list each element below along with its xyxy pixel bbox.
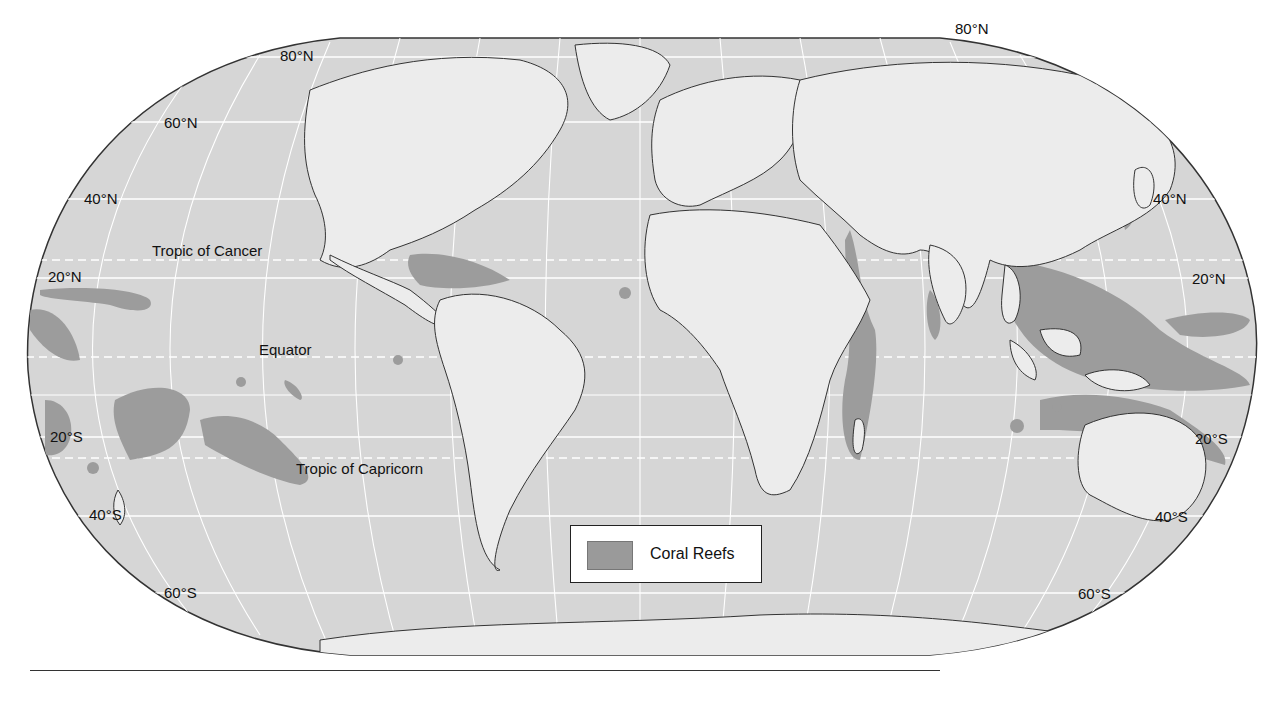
lat-label-40s-left: 40°S	[89, 506, 122, 523]
tropic-of-capricorn-label: Tropic of Capricorn	[296, 460, 423, 477]
lat-label-80n-right: 80°N	[955, 20, 989, 37]
lat-label-40n-left: 40°N	[84, 190, 118, 207]
tropic-of-cancer-label: Tropic of Cancer	[152, 242, 262, 259]
coral-reef-swatch	[587, 541, 633, 570]
map-legend: Coral Reefs	[570, 525, 762, 583]
equator-label: Equator	[259, 341, 312, 358]
lat-label-60n-left: 60°N	[164, 114, 198, 131]
lat-label-60s-right: 60°S	[1078, 585, 1111, 602]
bottom-divider	[30, 670, 940, 671]
coral-reef-legend-label: Coral Reefs	[650, 545, 734, 563]
lat-label-20s-right: 20°S	[1195, 430, 1228, 447]
lat-label-80n-left: 80°N	[280, 47, 314, 64]
lat-label-20n-right: 20°N	[1192, 270, 1226, 287]
lat-label-60s-left: 60°S	[164, 584, 197, 601]
lat-label-20n-left: 20°N	[48, 268, 82, 285]
lat-label-20s-left: 20°S	[50, 428, 83, 445]
lat-label-40n-right: 40°N	[1153, 190, 1187, 207]
lat-label-40s-right: 40°S	[1155, 508, 1188, 525]
